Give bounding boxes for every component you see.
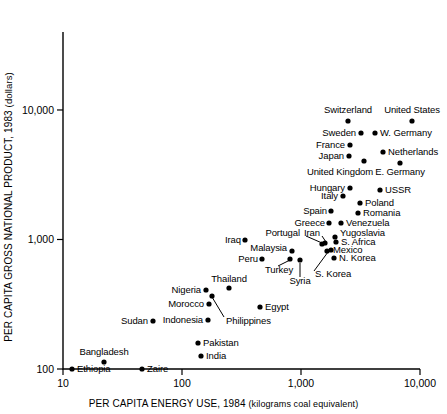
point-label: Iran — [304, 228, 320, 238]
y-axis-title: PER CAPITA GROSS NATIONAL PRODUCT, 1983 … — [3, 72, 14, 342]
data-point[interactable] — [331, 255, 336, 260]
point-label: Thailand — [211, 274, 247, 284]
data-point[interactable] — [347, 185, 352, 190]
data-point[interactable] — [340, 193, 345, 198]
data-point[interactable] — [205, 317, 210, 322]
point-label: India — [206, 351, 226, 361]
point-label: Zaire — [147, 364, 168, 374]
point-label: Philippines — [226, 316, 271, 326]
x-tick-label: 10 — [57, 377, 69, 389]
x-axis-unit-text: (kilograms coal equivalent) — [248, 399, 358, 409]
point-label: S. Korea — [315, 269, 351, 279]
point-label: Netherlands — [388, 147, 438, 157]
data-point[interactable] — [150, 318, 155, 323]
data-point[interactable] — [297, 257, 302, 262]
point-label: Egypt — [265, 302, 289, 312]
data-point[interactable] — [209, 293, 214, 298]
data-point[interactable] — [347, 142, 352, 147]
data-point[interactable] — [226, 285, 231, 290]
point-label: W. Germany — [380, 128, 432, 138]
data-point[interactable] — [257, 304, 262, 309]
point-label: United Kingdom — [307, 167, 373, 177]
point-label: USSR — [385, 185, 411, 195]
data-point[interactable] — [361, 158, 366, 163]
scatter-plot-figure: SwitzerlandUnited StatesSwedenW. Germany… — [0, 0, 447, 414]
y-axis-unit-text: (dollars) — [3, 72, 14, 107]
point-label: Syria — [289, 276, 310, 286]
point-label: N. Korea — [339, 253, 376, 263]
data-point[interactable] — [345, 118, 350, 123]
data-point[interactable] — [326, 220, 331, 225]
data-point[interactable] — [195, 340, 200, 345]
y-axis-ticks — [57, 110, 63, 369]
point-label: Switzerland — [324, 105, 372, 115]
point-label: Sudan — [121, 316, 148, 326]
data-point[interactable] — [355, 210, 360, 215]
data-point[interactable] — [328, 208, 333, 213]
point-label: Italy — [321, 191, 338, 201]
y-tick-label: 10,000 — [22, 104, 54, 116]
y-tick-label: 1,000 — [28, 233, 54, 245]
data-point[interactable] — [287, 256, 292, 261]
data-point[interactable] — [206, 301, 211, 306]
point-label: Iraq — [225, 235, 241, 245]
data-point[interactable] — [203, 287, 208, 292]
point-label: France — [316, 140, 345, 150]
data-point[interactable] — [259, 256, 264, 261]
data-point[interactable] — [357, 200, 362, 205]
data-point[interactable] — [69, 366, 74, 371]
point-label: Ethiopia — [77, 364, 111, 374]
point-label: Pakistan — [203, 338, 239, 348]
point-label: Malaysia — [250, 243, 287, 253]
data-point[interactable] — [338, 220, 343, 225]
point-label: Spain — [303, 206, 327, 216]
x-tick-label: 100 — [173, 377, 191, 389]
point-label: Nigeria — [172, 285, 201, 295]
data-point[interactable] — [372, 130, 377, 135]
point-label: United States — [384, 105, 440, 115]
data-point[interactable] — [377, 187, 382, 192]
philippines-leader — [212, 297, 224, 317]
x-tick-label: 1,000 — [288, 377, 314, 389]
x-axis-title: PER CAPITA ENERGY USE, 1984 (kilograms c… — [0, 398, 447, 409]
data-point[interactable] — [289, 248, 294, 253]
point-label: E. Germany — [375, 167, 425, 177]
point-label: Turkey — [265, 265, 293, 275]
y-tick-label: 100 — [36, 363, 54, 375]
x-axis-ticks — [63, 369, 420, 375]
point-label: Indonesia — [163, 315, 203, 325]
data-point[interactable] — [324, 248, 329, 253]
point-label: Sweden — [322, 128, 356, 138]
point-label: Portugal — [265, 228, 300, 238]
point-label: Peru — [238, 254, 258, 264]
data-point[interactable] — [198, 353, 203, 358]
data-point[interactable] — [380, 149, 385, 154]
point-label: Morocco — [168, 299, 204, 309]
data-point[interactable] — [242, 237, 247, 242]
point-label: Bangladesh — [79, 347, 128, 357]
data-point[interactable] — [358, 130, 363, 135]
y-axis-title-text: PER CAPITA GROSS NATIONAL PRODUCT, 1983 — [3, 110, 14, 342]
data-point[interactable] — [319, 241, 324, 246]
point-label: Japan — [319, 151, 344, 161]
x-axis-title-text: PER CAPITA ENERGY USE, 1984 — [89, 398, 246, 409]
data-point[interactable] — [346, 153, 351, 158]
data-point[interactable] — [409, 118, 414, 123]
data-point[interactable] — [332, 234, 337, 239]
data-point[interactable] — [397, 160, 402, 165]
x-tick-label: 10,000 — [404, 377, 436, 389]
data-point[interactable] — [139, 366, 144, 371]
